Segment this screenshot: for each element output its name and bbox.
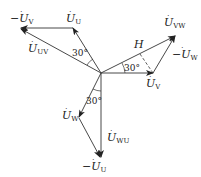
- svg-text:·: ·: [149, 72, 152, 81]
- angle-arc-1: [87, 59, 93, 65]
- label-u-u: UU ·: [66, 7, 81, 26]
- label-u-uv: UUV ·: [28, 37, 49, 56]
- svg-text:·: ·: [92, 155, 95, 164]
- svg-text:·: ·: [110, 126, 113, 135]
- label-h: H: [133, 38, 144, 51]
- svg-text:·: ·: [167, 11, 170, 20]
- svg-text:·: ·: [65, 104, 68, 113]
- vector-u-w: [79, 73, 101, 117]
- label-neg-u-w: −UW ·: [172, 43, 199, 62]
- phasor-diagram: 30° 30° 30° −UV · UU · UUV · UVW · −UW ·…: [0, 0, 201, 177]
- angle-label-3: 30°: [86, 96, 102, 106]
- angle-label-2: 30°: [124, 63, 140, 73]
- svg-text:−UW: −UW: [172, 48, 199, 62]
- svg-text:·: ·: [181, 43, 184, 52]
- angle-label-1: 30°: [72, 48, 88, 58]
- label-u-vw: UVW ·: [164, 11, 186, 30]
- svg-text:·: ·: [31, 37, 34, 46]
- svg-text:·: ·: [20, 7, 23, 16]
- label-u-wu: UWU ·: [107, 126, 129, 145]
- label-u-v: UV ·: [146, 72, 161, 91]
- label-neg-u-u: −UU ·: [82, 155, 107, 174]
- label-u-w: UW ·: [62, 104, 79, 123]
- svg-text:·: ·: [69, 7, 72, 16]
- label-neg-u-v: −UV ·: [10, 7, 35, 26]
- height-line-h: [140, 54, 153, 73]
- phasor-svg: 30° 30° 30° −UV · UU · UUV · UVW · −UW ·…: [0, 0, 201, 177]
- vector-neg-u-u: [79, 118, 100, 157]
- angle-arc-3: [93, 89, 101, 91]
